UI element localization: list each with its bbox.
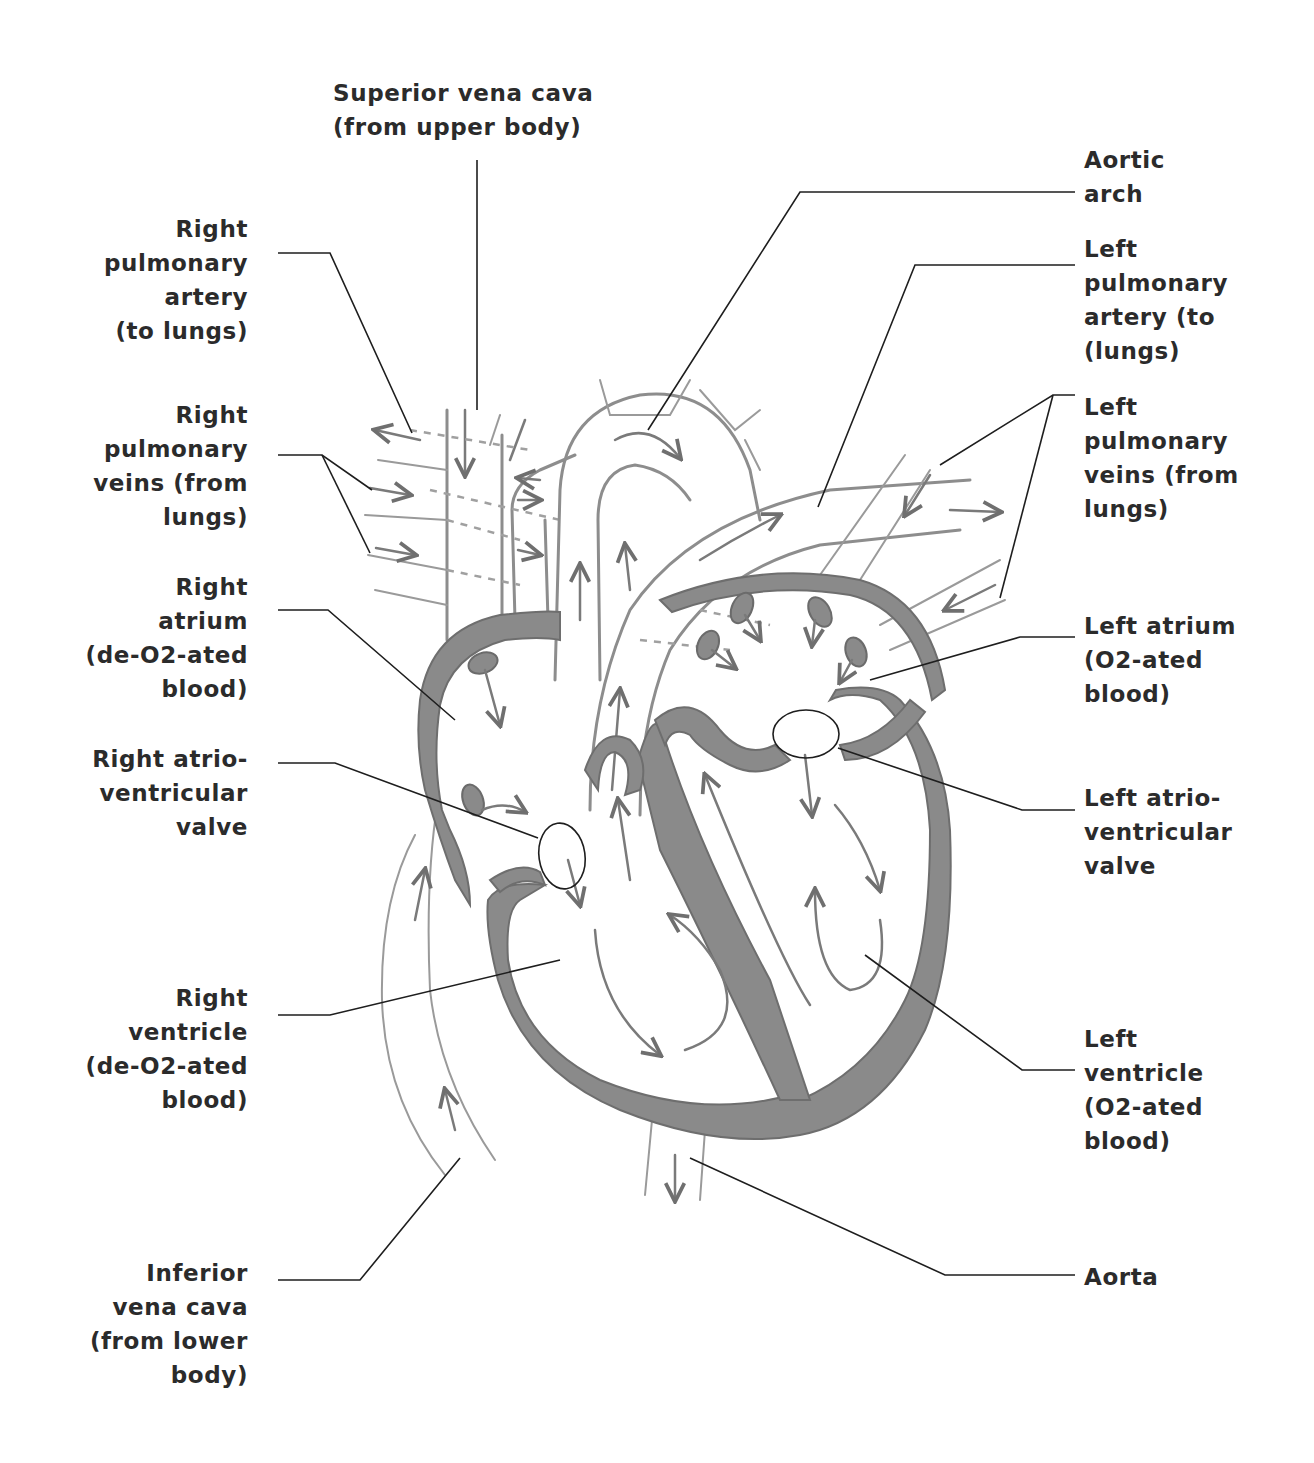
left-av-valve-marker <box>773 710 839 758</box>
label-aorta: Aorta <box>1084 1260 1158 1294</box>
leader-left-pulmonary-veins-a <box>940 395 1075 465</box>
right-pulmonary-artery-shape <box>375 430 575 620</box>
leader-left-pulmonary-veins-b <box>1000 395 1053 598</box>
label-inferior-vena-cava: Inferior vena cava (from lower body) <box>90 1256 248 1392</box>
label-left-pulmonary-artery: Left pulmonary artery (to (lungs) <box>1084 232 1228 368</box>
leader-inferior-vena-cava <box>278 1158 460 1280</box>
leader-aortic-arch <box>648 192 1075 430</box>
label-right-pulmonary-veins: Right pulmonary veins (from lungs) <box>93 398 248 534</box>
label-right-atrium: Right atrium (de-O2-ated blood) <box>86 570 248 706</box>
label-right-ventricle: Right ventricle (de-O2-ated blood) <box>86 981 248 1117</box>
label-left-pulmonary-veins: Left pulmonary veins (from lungs) <box>1084 390 1239 526</box>
leader-left-av-valve <box>838 748 1075 810</box>
label-left-av-valve: Left atrio- ventricular valve <box>1084 781 1233 883</box>
label-superior-vena-cava: Superior vena cava (from upper body) <box>333 76 593 144</box>
label-right-av-valve: Right atrio- ventricular valve <box>92 742 248 844</box>
label-left-ventricle: Left ventricle (O2-ated blood) <box>1084 1022 1204 1158</box>
label-left-atrium: Left atrium (O2-ated blood) <box>1084 609 1236 711</box>
leader-left-atrium <box>870 637 1075 680</box>
leader-right-pulmonary-artery <box>278 253 412 433</box>
label-aortic-arch: Aortic arch <box>1084 143 1165 211</box>
leader-right-av-valve <box>278 763 538 838</box>
aortic-arch-shape <box>555 380 760 680</box>
leader-aorta <box>690 1158 1075 1275</box>
leader-right-pulmonary-veins-b <box>322 455 370 553</box>
label-right-pulmonary-artery: Right pulmonary artery (to lungs) <box>104 212 248 348</box>
leader-left-pulmonary-artery <box>818 265 1075 507</box>
inferior-vena-cava-shape <box>382 800 495 1175</box>
